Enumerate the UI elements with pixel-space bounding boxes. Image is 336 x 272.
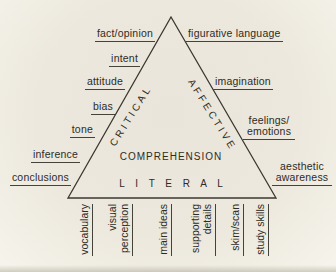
base-label-literal: L I T E R A L [119, 179, 226, 189]
label-vocabulary: vocabulary [78, 204, 93, 256]
label-study-skills: study skills [254, 204, 269, 256]
label-inference: inference [31, 149, 80, 163]
label-feelings-emotions: feelings/ emotions [243, 115, 295, 140]
label-figurative-language: figurative language [186, 28, 283, 42]
label-visual-perception: visual perception [106, 204, 133, 256]
center-label-comprehension: COMPREHENSION [120, 152, 222, 162]
label-fact-opinion: fact/opinion [95, 28, 155, 42]
label-imagination: imagination [213, 76, 273, 90]
label-intent: intent [109, 53, 140, 67]
label-supporting-details: supporting details [189, 204, 216, 256]
label-tone: tone [70, 124, 95, 138]
page-edge-shadow [0, 265, 336, 272]
label-skim-scan: skim/scan [229, 204, 244, 256]
label-conclusions: conclusions [10, 172, 71, 186]
label-aesthetic-awareness: aesthetic awareness [272, 161, 332, 186]
scanned-diagram-page: fact/opinion intent attitude bias tone i… [0, 0, 336, 272]
label-bias: bias [91, 101, 115, 115]
label-main-ideas: main ideas [157, 204, 172, 256]
label-attitude: attitude [85, 76, 125, 90]
